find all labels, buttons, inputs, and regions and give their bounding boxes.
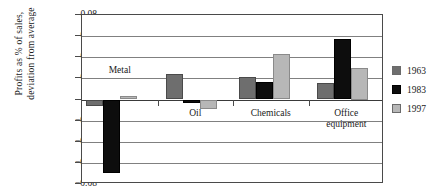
x-tick-mark [309, 100, 310, 106]
zero-line [82, 100, 382, 101]
bar [86, 100, 103, 106]
category-label-line: equipment [309, 119, 385, 130]
gridline [82, 142, 382, 143]
legend-swatch-icon [392, 66, 401, 75]
bar [256, 82, 273, 100]
y-tick-mark [75, 183, 81, 184]
category-label-line: Metal [82, 65, 158, 76]
bar [334, 39, 351, 99]
chart-figure: Profits as % of sales, deviation from av… [0, 0, 440, 192]
bar [239, 77, 256, 99]
bar [183, 100, 200, 103]
legend-swatch-icon [392, 85, 401, 94]
legend-item[interactable]: 1983 [392, 80, 426, 99]
category-label-line: Office [309, 108, 385, 119]
category-label: Chemicals [233, 108, 309, 119]
bar [351, 68, 368, 100]
category-label: Officeequipment [309, 108, 385, 130]
gridline [82, 163, 382, 164]
category-label: Metal [82, 65, 158, 76]
category-label: Oil [158, 108, 234, 119]
bar [120, 96, 137, 99]
category-label-line: Oil [158, 108, 234, 119]
y-axis-title-line-2: deviation from average [25, 0, 37, 139]
bar [317, 83, 334, 100]
y-axis-title-line-1: Profits as % of sales, [14, 0, 26, 139]
plot-area: MetalOilChemicalsOfficeequipment [81, 14, 383, 183]
legend-swatch-icon [392, 104, 401, 113]
y-axis-title: Profits as % of sales, deviation from av… [14, 0, 37, 139]
legend-label: 1963 [407, 66, 426, 76]
legend-label: 1997 [407, 104, 426, 114]
x-tick-mark [233, 100, 234, 106]
legend-item[interactable]: 1997 [392, 99, 426, 118]
bar [103, 100, 120, 174]
bar [166, 74, 183, 99]
category-label-line: Chemicals [233, 108, 309, 119]
x-tick-mark [158, 100, 159, 106]
gridline [82, 36, 382, 37]
bar [273, 54, 290, 99]
legend: 1963 1983 1997 [392, 61, 426, 118]
legend-item[interactable]: 1963 [392, 61, 426, 80]
legend-label: 1983 [407, 85, 426, 95]
